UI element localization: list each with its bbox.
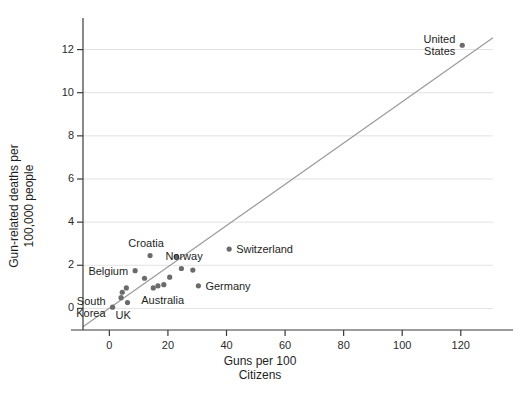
x-axis-title: Guns per 100 Citizens	[160, 354, 360, 382]
point-label-germany: Germany	[205, 280, 250, 292]
data-point	[161, 282, 166, 287]
point-label-uk: UK	[116, 309, 131, 321]
y-axis-title-wrapper: Gun-related deaths per 100,000 people	[0, 118, 44, 278]
data-point	[460, 43, 465, 48]
croatia-label: Croatia	[128, 237, 163, 249]
y-tick-label: 8	[40, 130, 74, 141]
y-tick-label: 6	[40, 173, 74, 184]
x-tick-label: 0	[84, 340, 134, 351]
data-point	[124, 285, 129, 290]
data-point	[133, 268, 138, 273]
y-tick-label: 0	[40, 302, 74, 313]
data-point	[147, 253, 152, 258]
x-tick-label: 80	[319, 340, 369, 351]
point-label-australia: Australia	[141, 294, 184, 306]
trendline-group	[83, 38, 493, 327]
data-point	[110, 305, 115, 310]
data-point	[167, 275, 172, 280]
data-point	[155, 283, 160, 288]
y-tick-label: 4	[40, 216, 74, 227]
y-tick-label: 2	[40, 259, 74, 270]
point-label-norway: Norway	[165, 250, 202, 262]
plot-canvas	[0, 0, 525, 396]
y-tick-label: 10	[40, 87, 74, 98]
x-tick-label: 60	[260, 340, 310, 351]
data-point	[151, 285, 156, 290]
data-point	[120, 290, 125, 295]
data-point	[179, 266, 184, 271]
gridlines-group	[83, 50, 493, 309]
axes-group	[71, 18, 513, 330]
point-label-south-korea: South Korea	[76, 295, 105, 319]
trend-line	[83, 38, 493, 327]
y-axis-title: Gun-related deaths per 100,000 people	[7, 126, 37, 286]
data-point	[142, 276, 147, 281]
point-label-switzerland: Switzerland	[236, 243, 293, 255]
y-tick-label: 12	[40, 44, 74, 55]
x-tick-label: 20	[143, 340, 193, 351]
data-point	[125, 300, 130, 305]
data-point	[118, 295, 123, 300]
x-tick-label: 100	[377, 340, 427, 351]
data-point	[196, 283, 201, 288]
x-tick-label: 120	[436, 340, 486, 351]
data-point	[190, 267, 195, 272]
gun-deaths-scatter-figure: Gun-related deaths per 100,000 people Gu…	[0, 0, 525, 396]
x-tick-label: 40	[202, 340, 252, 351]
point-label-belgium: Belgium	[88, 265, 128, 277]
data-point	[227, 247, 232, 252]
point-label-united-states: United States	[423, 33, 455, 57]
